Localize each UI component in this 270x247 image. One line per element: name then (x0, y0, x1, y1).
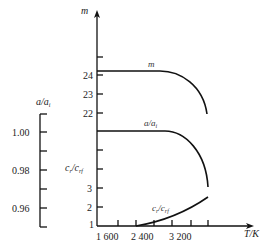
x-tick-label-2400: 2 400 (131, 231, 154, 242)
curve-label-a: a/ai (144, 118, 158, 129)
m-tick-label-24: 24 (83, 70, 93, 81)
m-tick-label-22: 22 (83, 108, 93, 119)
curves: m a/ai cr/crf (97, 59, 208, 226)
a-axis-label: a/ai (36, 96, 51, 108)
curve-label-m: m (148, 59, 155, 69)
c-axis-label: cr/crf (65, 162, 84, 174)
x-axis-label: T/K (244, 228, 260, 239)
c-tick-label-1: 1 (89, 219, 94, 230)
curve-m (97, 71, 207, 114)
m-tick-label-23: 23 (83, 89, 93, 100)
curve-a (97, 131, 208, 187)
c-tick-label-3: 3 (87, 183, 92, 194)
curve-label-cr: cr/crf (152, 203, 170, 214)
a-tick-label-096: 0.96 (12, 203, 30, 214)
x-tick-label-1600: 1 600 (96, 231, 119, 242)
x-tick-label-3200: 3 200 (169, 231, 192, 242)
left-a-axis: 1.00 0.98 0.96 a/ai (12, 96, 51, 227)
chart-canvas: m 24 23 22 3 2 1 cr/crf 1 600 2 400 3 20… (0, 0, 270, 247)
x-axis: 1 600 2 400 3 200 T/K (96, 220, 260, 242)
a-tick-label-100: 1.00 (12, 127, 30, 138)
m-axis-label: m (81, 5, 88, 16)
main-y-axis: m 24 23 22 3 2 1 cr/crf (65, 5, 103, 230)
c-tick-label-2: 2 (87, 202, 92, 213)
a-tick-label-098: 0.98 (12, 165, 30, 176)
